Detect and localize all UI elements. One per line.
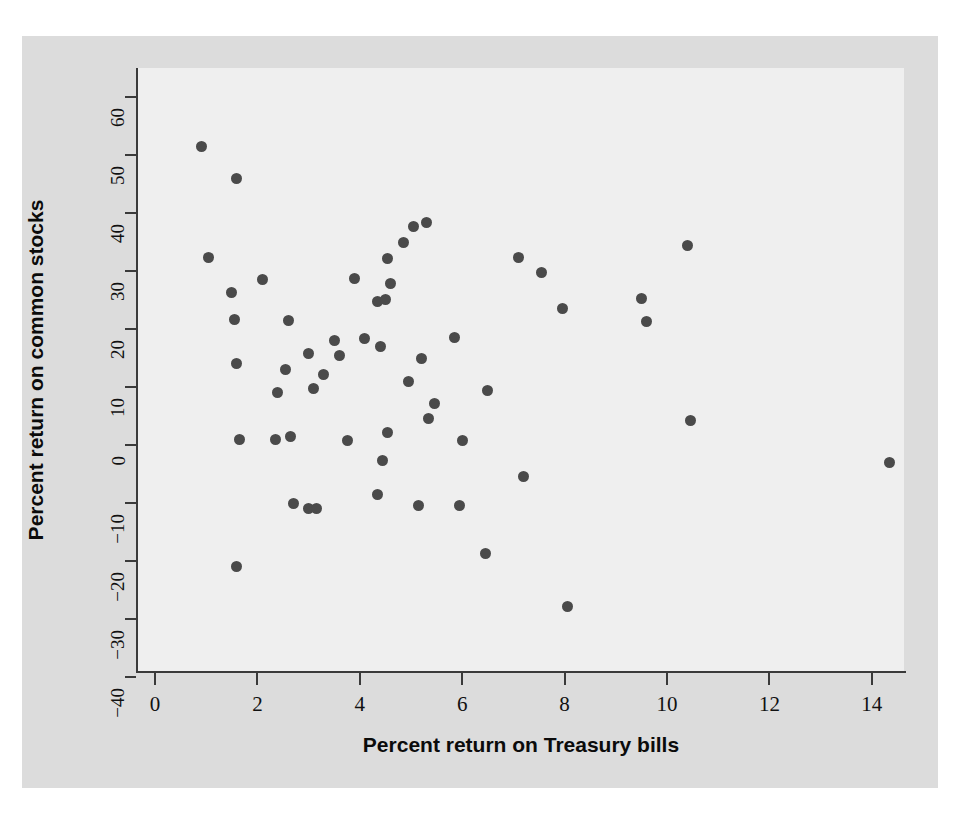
y-tick-label: −10 (107, 514, 129, 544)
data-point (562, 601, 573, 612)
x-tick-0 (154, 673, 156, 685)
data-point (303, 348, 314, 359)
x-tick-2 (256, 673, 258, 685)
x-tick-12 (768, 673, 770, 685)
data-point (288, 498, 299, 509)
data-point (557, 303, 568, 314)
y-tick-−20 (125, 560, 136, 562)
data-point (283, 315, 294, 326)
y-tick-0 (125, 444, 136, 446)
y-tick-label: 50 (107, 166, 129, 185)
y-tick-label: 20 (107, 340, 129, 359)
data-point (377, 455, 388, 466)
y-tick-−10 (125, 502, 136, 504)
x-tick-label: 4 (340, 692, 380, 717)
y-tick-−30 (125, 618, 136, 620)
x-tick-6 (461, 673, 463, 685)
data-point (536, 267, 547, 278)
y-tick-50 (125, 154, 136, 156)
y-tick-label: −30 (107, 630, 129, 660)
data-point (311, 503, 322, 514)
y-tick-label: 40 (107, 224, 129, 243)
y-tick-label: 60 (107, 108, 129, 127)
scatter-plot-figure: 6050403020100−10−20−30−40 02468101214 Pe… (0, 0, 962, 829)
y-tick-20 (125, 328, 136, 330)
x-tick-label: 12 (749, 692, 789, 717)
data-point (429, 398, 440, 409)
y-tick-10 (125, 386, 136, 388)
x-axis-line (136, 671, 906, 673)
y-tick-30 (125, 270, 136, 272)
data-point (682, 240, 693, 251)
x-tick-8 (564, 673, 566, 685)
x-tick-label: 14 (852, 692, 892, 717)
data-point (403, 376, 414, 387)
x-tick-label: 2 (237, 692, 277, 717)
data-point (421, 217, 432, 228)
x-tick-label: 10 (647, 692, 687, 717)
data-point (308, 383, 319, 394)
y-tick-label: −40 (107, 688, 129, 718)
data-point (380, 294, 391, 305)
y-tick-60 (125, 96, 136, 98)
data-point (334, 350, 345, 361)
data-point (372, 489, 383, 500)
data-point (413, 500, 424, 511)
data-point (513, 252, 524, 263)
data-point (398, 237, 409, 248)
plot-panel (136, 68, 904, 672)
y-tick-label: −20 (107, 572, 129, 602)
x-tick-label: 8 (545, 692, 585, 717)
data-point (229, 314, 240, 325)
y-tick-label: 10 (107, 398, 129, 417)
data-point (457, 435, 468, 446)
y-tick-40 (125, 212, 136, 214)
data-point (416, 353, 427, 364)
x-tick-10 (666, 673, 668, 685)
data-point (342, 435, 353, 446)
x-axis-title: Percent return on Treasury bills (363, 733, 679, 757)
y-axis-title: Percent return on common stocks (24, 200, 48, 541)
x-tick-label: 0 (135, 692, 175, 717)
data-point (641, 316, 652, 327)
data-point (636, 293, 647, 304)
data-point (685, 415, 696, 426)
x-tick-label: 6 (442, 692, 482, 717)
y-tick-−40 (125, 676, 136, 678)
data-point (196, 141, 207, 152)
y-tick-label: 0 (107, 456, 129, 466)
x-tick-4 (359, 673, 361, 685)
y-tick-label: 30 (107, 282, 129, 301)
data-point (480, 548, 491, 559)
x-tick-14 (871, 673, 873, 685)
data-point (329, 335, 340, 346)
